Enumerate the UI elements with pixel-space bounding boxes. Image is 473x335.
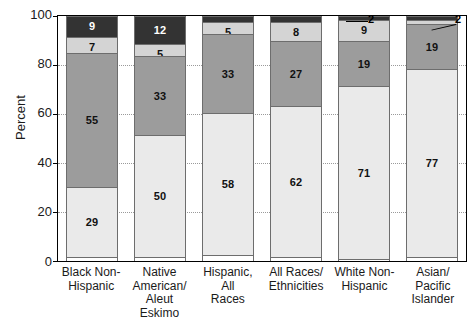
bar-segment[interactable]: 33 [135,56,185,137]
bar-segment[interactable]: 9 [67,16,117,38]
stacked-bar[interactable]: 382762 [270,16,322,261]
y-tick-label-40: 40 [16,156,52,169]
stacked-bar[interactable]: 221977 [406,16,458,261]
x-axis-category-label: Asian/PacificIslander [399,266,467,320]
bar-segment-value-label: 55 [86,115,98,126]
bar-slot: 291971 [330,16,398,261]
bar-segment[interactable]: 27 [271,41,321,107]
x-axis-label-line: Races [195,293,261,307]
bar-segment-value-label: 19 [358,59,370,70]
bar-segment[interactable]: 33 [203,34,253,115]
bar-segment[interactable]: 55 [67,53,117,188]
callout-value: 2 [368,13,374,25]
callout-leader-line [346,21,368,22]
x-axis-category-label: Hispanic,AllRaces [194,266,262,320]
bar-slot: 382762 [262,16,330,261]
bar-segment-value-label: 9 [89,21,95,32]
y-axis-ticks: 100 80 60 40 20 0 [8,0,52,335]
x-axis-label-line: Asian/ [400,266,466,280]
y-axis-tickmark [53,16,58,17]
y-tick-label-60: 60 [16,106,52,119]
bar-segment-value-label: 62 [290,177,302,188]
y-axis-tickmark [53,65,58,66]
y-tick-label-100: 100 [16,8,52,21]
stacked-bar[interactable]: 1253350 [134,16,186,261]
bar-segment[interactable]: 29 [67,187,117,258]
stacked-bar[interactable]: 291971 [338,16,390,261]
x-axis-label-line: Hispanic [331,280,397,294]
x-axis-label-line: All Races/ [263,266,329,280]
x-axis-label-line: Native [126,266,192,280]
x-axis-labels: Black Non-HispanicNativeAmerican/AleutEs… [57,266,467,320]
bar-segment-value-label: 9 [361,25,367,36]
y-tick-label-80: 80 [16,57,52,70]
bar-segment[interactable]: 77 [407,69,457,258]
bar-slot: 1253350 [126,16,194,261]
bar-segment-value-label: 7 [89,42,95,53]
bar-segment[interactable]: 8 [271,22,321,42]
bars-container: 9755291253350353358382762291971221977 [58,16,466,261]
bar-slot: 353358 [194,16,262,261]
x-axis-label-line: Ethnicities [263,280,329,294]
bar-segment-value-label: 8 [293,27,299,38]
y-axis-tickmark [53,114,58,115]
x-axis-label-line: Hispanic, [195,266,261,280]
bar-segment-value-label: 58 [222,179,234,190]
y-tick-label-20: 20 [16,205,52,218]
x-axis-category-label: NativeAmerican/AleutEskimo [125,266,193,320]
bar-segment-value-label: 12 [154,25,166,36]
plot-area: 9755291253350353358382762291971221977 [57,15,467,262]
y-tick-label-0: 0 [16,255,52,268]
bar-segment[interactable]: 9 [339,20,389,42]
bar-segment-value-label: 29 [86,217,98,228]
bar-segment-value-label: 50 [154,191,166,202]
x-axis-label-line: Islander [400,293,466,307]
y-axis-tickmark [53,261,58,262]
bar-segment[interactable]: 58 [203,113,253,255]
x-axis-category-label: White Non-Hispanic [330,266,398,320]
bar-segment-value-label: 71 [358,168,370,179]
stacked-bar[interactable]: 353358 [202,16,254,261]
y-axis-tickmark [53,163,58,164]
x-axis-label-line: Black Non- [58,266,124,280]
x-axis-label-line: Pacific [400,280,466,294]
bar-segment-value-label: 19 [426,42,438,53]
x-axis-label-line: Hispanic [58,280,124,294]
x-axis-label-line: Aleut [126,293,192,307]
x-axis-category-label: Black Non-Hispanic [57,266,125,320]
bar-segment-value-label: 77 [426,158,438,169]
x-axis-label-line: All [195,280,261,294]
bar-segment-value-label: 33 [154,91,166,102]
bar-segment[interactable]: 71 [339,86,389,260]
bar-segment-value-label: 27 [290,69,302,80]
bar-segment[interactable]: 62 [271,106,321,258]
x-axis-category-label: All Races/Ethnicities [262,266,330,320]
bar-segment[interactable]: 50 [135,135,185,258]
callout-value: 2 [455,13,461,25]
x-axis-label-line: American/ [126,280,192,294]
x-axis-label-line: Eskimo [126,307,192,321]
bar-segment[interactable]: 12 [135,16,185,45]
stacked-bar[interactable]: 975529 [66,16,118,261]
x-axis-label-line: White Non- [331,266,397,280]
bar-slot: 221977 [398,16,466,261]
y-axis-tickmark [53,212,58,213]
bar-segment[interactable]: 7 [67,37,117,54]
bar-segment-value-label: 33 [222,69,234,80]
bar-slot: 975529 [58,16,126,261]
bar-segment[interactable]: 19 [339,41,389,88]
stacked-bar-chart: Percent 100 80 60 40 20 0 97552912533503… [0,0,473,335]
